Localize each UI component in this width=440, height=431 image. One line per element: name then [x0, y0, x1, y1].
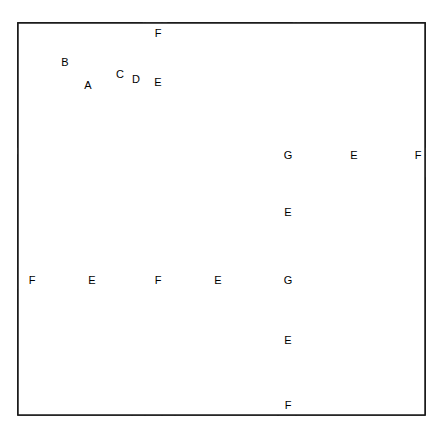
piece-label-d-3: D: [132, 73, 140, 85]
diagram-canvas: ABCDEFGEFEFEFEGEF: [0, 0, 440, 431]
piece-label-c-2: C: [116, 68, 124, 80]
piece-label-e-15: E: [284, 334, 291, 346]
piece-label-f-12: F: [155, 274, 162, 286]
quilt-outer-border-top: [18, 23, 425, 415]
piece-label-g-14: G: [284, 274, 293, 286]
piece-label-f-16: F: [285, 399, 292, 411]
piece-label-e-9: E: [284, 206, 291, 218]
piece-label-e-11: E: [88, 274, 95, 286]
piece-label-g-6: G: [284, 149, 293, 161]
piece-label-b-1: B: [61, 56, 68, 68]
piece-label-e-7: E: [350, 149, 357, 161]
piece-label-f-8: F: [415, 149, 422, 161]
piece-label-a-0: A: [84, 79, 91, 91]
piece-label-e-13: E: [214, 274, 221, 286]
piece-label-f-10: F: [29, 274, 36, 286]
piece-label-f-5: F: [155, 27, 162, 39]
piece-label-e-4: E: [154, 76, 161, 88]
